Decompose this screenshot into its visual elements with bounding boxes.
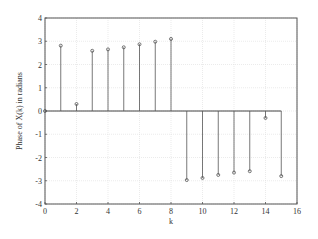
stem-point [201,111,204,179]
y-tick-label: -4 [35,200,42,209]
y-tick-label: 0 [38,107,42,116]
stem-series [44,37,283,181]
stem-point [138,43,141,111]
y-axis-label: Phase of X(k) in radians [15,72,24,150]
stem-point [185,111,188,182]
x-tick-label: 12 [230,207,238,216]
stem-point [91,49,94,111]
stem-point [107,48,110,111]
stem-point [233,111,236,174]
y-tick-label: -2 [35,154,42,163]
x-tick-label: 16 [293,207,301,216]
stem-point [217,111,220,176]
y-tick-label: 2 [38,61,42,70]
y-tick-label: 3 [38,37,42,46]
y-tick-label: -1 [35,130,42,139]
stem-point [75,103,78,111]
x-tick-label: 10 [199,207,207,216]
stem-point [280,111,283,178]
phase-stem-chart: 0246810121416 -4-3-2-101234 k Phase of X… [0,0,318,239]
x-tick-label: 14 [262,207,270,216]
x-tick-label: 4 [106,207,110,216]
stem-point [154,40,157,111]
x-axis-label: k [169,217,173,226]
stem-point [248,111,251,173]
y-tick-label: -3 [35,177,42,186]
stem-point [170,37,173,111]
x-tick-label: 8 [169,207,173,216]
x-tick-label: 0 [43,207,47,216]
x-tick-label: 6 [138,207,142,216]
y-tick-label: 1 [38,84,42,93]
stem-point [122,46,125,111]
x-tick-label: 2 [75,207,79,216]
stem-point [59,44,62,111]
y-tick-label: 4 [38,14,42,23]
